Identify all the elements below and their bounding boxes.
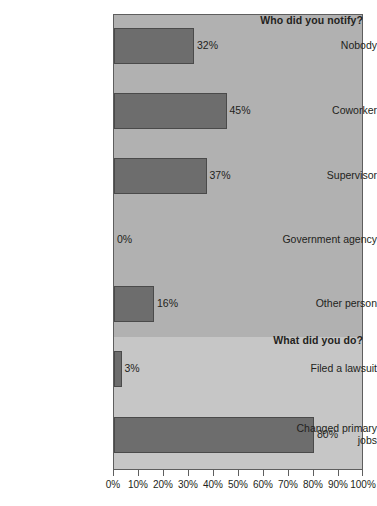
x-axis-tick-label: 100% [350,479,376,490]
bar-chart: Who did you notify? What did you do? Nob… [0,0,377,506]
category-label: Other person [269,297,377,310]
x-axis-tick-label: 50% [228,479,248,490]
x-axis-ticks [113,470,363,476]
x-axis-tick [362,470,363,476]
x-axis-tick-label: 30% [178,479,198,490]
category-label: Coworker [269,104,377,117]
band-title-what-did-you-do: What did you do? [273,334,363,346]
x-axis-tick-label: 20% [153,479,173,490]
band-title-who-did-you-notify: Who did you notify? [260,14,363,26]
bar [114,351,122,387]
value-label: 37% [210,169,231,181]
x-axis-tick [113,470,114,476]
x-axis-tick [213,470,214,476]
x-axis-tick-label: 40% [203,479,223,490]
bar [114,28,194,64]
category-label: Nobody [269,39,377,52]
x-axis-tick-label: 80% [303,479,323,490]
x-axis-tick [313,470,314,476]
category-label: Supervisor [269,169,377,182]
x-axis-tick [188,470,189,476]
category-label: Filed a lawsuit [269,362,377,375]
x-axis-tick [138,470,139,476]
value-label: 16% [157,297,178,309]
value-label: 0% [117,233,132,245]
value-label: 32% [197,39,218,51]
x-axis-tick-label: 70% [278,479,298,490]
category-label: Government agency [269,233,377,246]
x-axis-tick-label: 10% [128,479,148,490]
x-axis-tick [288,470,289,476]
x-axis-tick [338,470,339,476]
x-axis-tick [263,470,264,476]
x-axis-tick [163,470,164,476]
x-axis-tick-label: 0% [106,479,120,490]
value-label: 80% [317,428,338,440]
bar [114,158,207,194]
bar [114,93,227,129]
value-label: 3% [125,362,140,374]
x-axis-tick [238,470,239,476]
value-label: 45% [230,104,251,116]
bar [114,286,154,322]
x-axis-tick-label: 90% [328,479,348,490]
x-axis-tick-label: 60% [253,479,273,490]
bar [114,417,314,453]
x-axis-tick-labels: 0%10%20%30%40%50%60%70%80%90%100% [0,479,377,495]
